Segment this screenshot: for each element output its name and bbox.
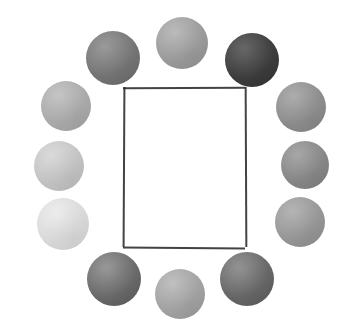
- circle-right-upper: [276, 82, 326, 132]
- circle-top-center: [156, 17, 208, 69]
- circle-right-middle: [281, 141, 329, 189]
- circle-left-lower: [37, 198, 89, 250]
- circle-bottom-left: [87, 252, 141, 306]
- circle-bottom-center: [155, 269, 205, 319]
- artwork-canvas: [0, 0, 363, 334]
- circle-left-upper: [41, 81, 91, 131]
- rectangle-edge-bottom: [123, 247, 245, 249]
- rectangle-edge-right: [245, 87, 247, 247]
- rectangle-edge-left: [123, 87, 125, 247]
- rectangle-edge-top: [123, 87, 245, 89]
- circle-left-middle: [34, 141, 84, 191]
- circle-top-left: [86, 31, 140, 85]
- circle-top-right: [225, 33, 279, 87]
- circle-bottom-right: [220, 252, 274, 306]
- circle-right-lower: [275, 197, 325, 247]
